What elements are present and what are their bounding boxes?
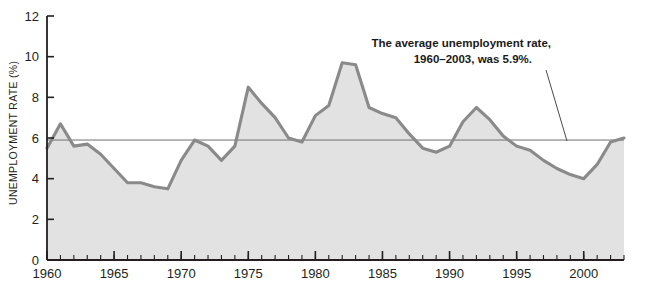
y-axis-title: UNEMPLOYMENT RATE (%) bbox=[7, 61, 19, 205]
x-tick-label: 1985 bbox=[368, 266, 397, 281]
x-tick-label: 1990 bbox=[435, 266, 464, 281]
y-tick-label: 10 bbox=[25, 49, 39, 64]
y-tick-label: 8 bbox=[32, 90, 39, 105]
x-tick-label: 1980 bbox=[301, 266, 330, 281]
annotation-line-1: The average unemployment rate, bbox=[371, 37, 551, 49]
y-tick-label: 4 bbox=[32, 171, 39, 186]
y-tick-label: 2 bbox=[32, 212, 39, 227]
chart-canvas: 024681012 196019651970197519801985199019… bbox=[0, 0, 647, 288]
x-tick-label: 1970 bbox=[167, 266, 196, 281]
unemployment-rate-chart: 024681012 196019651970197519801985199019… bbox=[0, 0, 647, 288]
y-tick-label: 12 bbox=[25, 9, 39, 24]
x-axis-tick-labels: 196019651970197519801985199019952000 bbox=[33, 266, 599, 281]
y-tick-label: 6 bbox=[32, 131, 39, 146]
x-tick-label: 1975 bbox=[234, 266, 263, 281]
x-tick-label: 1965 bbox=[100, 266, 129, 281]
x-tick-label: 1960 bbox=[33, 266, 62, 281]
x-tick-label: 1995 bbox=[502, 266, 531, 281]
x-tick-label: 2000 bbox=[569, 266, 598, 281]
annotation-line-2: 1960–2003, was 5.9%. bbox=[414, 53, 532, 65]
